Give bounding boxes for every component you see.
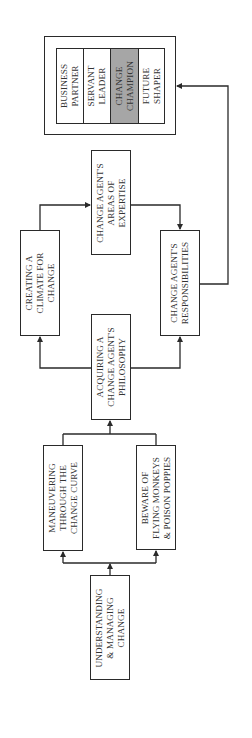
node-label-line2: THROUGH THE [58,462,69,534]
role-label-line1: SERVANT [86,65,97,106]
role-label-line1: CHANGE [114,61,125,111]
node-label-line2: CLIMATE FOR [35,252,46,313]
role-label-line2: SHAPER [152,68,163,104]
node-understanding: UNDERSTANDING& MANAGINGCHANGE [90,575,130,680]
node-label-line2: FLYING MONKEYS [151,456,162,538]
node-label-line1: MANEUVERING [47,462,58,534]
node-label-line1: CHANGE AGENT'S [95,163,106,242]
role-label-line2: CHAMPION [125,61,136,111]
role-business-partner: BUSINESSPARTNER [56,48,84,124]
node-label-line2: AREAS OF [106,163,117,242]
node-label-line2: CHANGE AGENT'S [106,327,117,406]
node-label-line3: PHILOSOPHY [117,327,128,406]
node-label-line1: CHANGE AGENT'S [169,242,180,324]
node-acquiring-philosophy: ACQUIRING ACHANGE AGENT'SPHILOSOPHY [91,314,131,420]
node-label-line1: ACQUIRING A [95,327,106,406]
node-creating-climate: CREATING ACLIMATE FORCHANGE [20,230,60,336]
role-label-line2: PARTNER [70,64,81,108]
role-label-line2: LEADER [97,65,108,106]
node-beware: BEWARE OFFLYING MONKEYS& POISON POPPIES [136,445,176,550]
node-label-line3: CHANGE [116,588,127,667]
role-label-line1: BUSINESS [59,64,70,108]
node-label-line1: BEWARE OF [140,456,151,538]
role-servant-leader: SERVANTLEADER [83,48,111,124]
role-label-line1: FUTURE [141,68,152,104]
role-change-champion: CHANGECHAMPION [110,48,139,124]
node-maneuvering: MANEUVERINGTHROUGH THECHANGE CURVE [43,445,83,551]
node-label-line2: RESPONSIBILITIES [180,242,191,324]
node-label-line3: & POISON POPPIES [162,456,173,538]
node-areas-of-expertise: CHANGE AGENT'SAREAS OFEXPERTISE [91,150,131,255]
node-label-line1: CREATING A [24,252,35,313]
node-label-line3: CHANGE [46,252,57,313]
node-label-line3: EXPERTISE [117,163,128,242]
node-responsibilities: CHANGE AGENT'SRESPONSIBILITIES [160,230,200,336]
node-label-line1: UNDERSTANDING [94,588,105,667]
role-future-shaper: FUTURESHAPER [138,48,165,124]
node-label-line2: & MANAGING [105,588,116,667]
node-label-line3: CHANGE CURVE [69,462,80,534]
